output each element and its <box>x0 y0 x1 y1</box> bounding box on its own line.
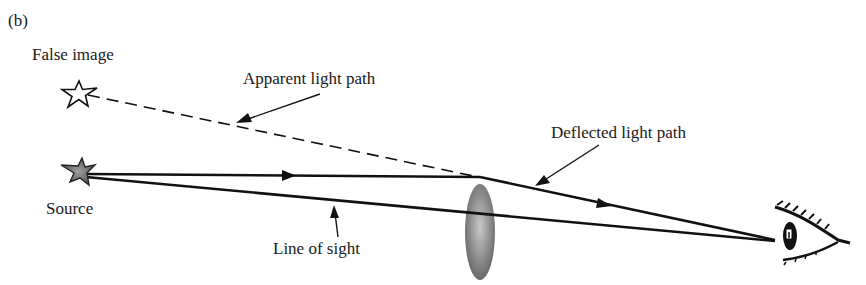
line-of-sight-line <box>86 177 775 241</box>
apparent-path-pointer-arrow-icon <box>236 113 252 123</box>
arrowhead-incoming-icon <box>282 170 296 181</box>
line-of-sight-pointer-arrow-icon <box>330 205 339 218</box>
false-image-label: False image <box>32 46 114 63</box>
deflected-path-pointer-arrow-icon <box>535 175 550 186</box>
source-star-icon <box>61 158 95 185</box>
lens-mass <box>465 184 495 280</box>
source-label: Source <box>46 200 93 217</box>
deflected-light-path-label: Deflected light path <box>551 124 686 141</box>
panel-label: (b) <box>8 12 28 29</box>
observer-eye-icon <box>775 201 850 265</box>
arrowhead-deflected-icon <box>596 198 612 208</box>
apparent-light-path-label: Apparent light path <box>243 70 375 87</box>
deflected-light-path-line <box>480 177 775 240</box>
false-image-star-icon <box>62 81 97 107</box>
deflected-path-pointer <box>543 145 599 181</box>
line-of-sight-label: Line of sight <box>273 240 360 257</box>
apparent-path-pointer <box>245 94 320 120</box>
gravitational-lensing-diagram <box>0 0 866 285</box>
